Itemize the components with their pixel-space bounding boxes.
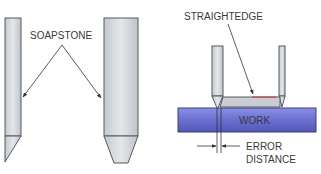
soapstone-arrow-left	[23, 45, 62, 97]
soapstone-thick	[104, 18, 138, 163]
straightedge-label: STRAIGHTEDGE	[184, 11, 263, 22]
error-distance-label-line2: DISTANCE	[246, 154, 296, 165]
work-label: WORK	[239, 115, 270, 126]
diagram: SOAPSTONE STRAIGHTEDGE WORK ERROR DISTAN…	[0, 0, 321, 174]
error-distance-label-line1: ERROR	[246, 141, 282, 152]
soapstone-arrow-right	[62, 45, 101, 98]
soapstone-thin	[5, 18, 21, 162]
straightedge-arrow	[228, 24, 253, 94]
straightedge	[220, 97, 280, 107]
soapstone-label: SOAPSTONE	[30, 30, 92, 41]
soapstone-marker-left	[212, 46, 223, 108]
